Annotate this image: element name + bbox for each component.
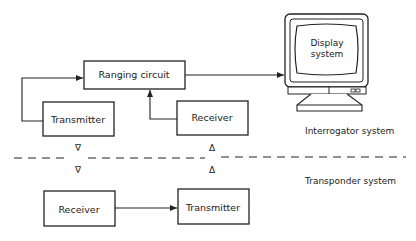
receiver-to-ranging-arrow <box>150 90 177 119</box>
receiver-top-label: Receiver <box>191 112 232 123</box>
ranging-circuit-block: Ranging circuit <box>84 61 185 89</box>
transmitter-bottom-block: Transmitter <box>178 189 249 224</box>
up-triangle-icon: Δ <box>209 165 216 175</box>
down-triangle-icon: ∇ <box>74 143 82 153</box>
down-triangle-icon: ∇ <box>74 165 82 175</box>
display-label-line1: Display <box>310 38 344 48</box>
receiver-bottom-label: Receiver <box>58 204 99 215</box>
transmitter-top-label: Transmitter <box>50 114 105 125</box>
transmitter-bottom-label: Transmitter <box>185 202 240 213</box>
display-monitor-icon: Display system <box>285 14 368 111</box>
system-boundary-dashed-line <box>14 157 406 158</box>
up-triangle-icon: Δ <box>209 143 216 153</box>
ranging-circuit-label: Ranging circuit <box>98 69 169 80</box>
transponder-system-label: Transponder system <box>304 176 396 186</box>
interrogator-transponder-diagram: Ranging circuit Transmitter Receiver Dis… <box>0 0 416 241</box>
display-label-line2: system <box>311 49 344 59</box>
receiver-top-block: Receiver <box>177 101 248 135</box>
receiver-bottom-block: Receiver <box>44 191 115 226</box>
interrogator-system-label: Interrogator system <box>305 126 394 136</box>
transmitter-top-block: Transmitter <box>43 102 114 136</box>
